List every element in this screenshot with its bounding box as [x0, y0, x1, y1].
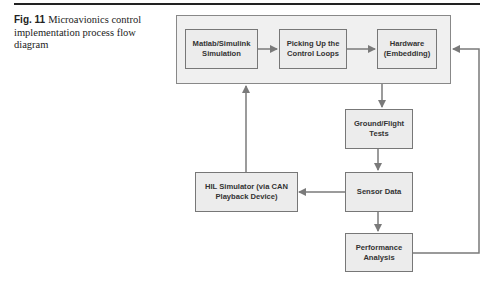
node-label: Performance	[356, 243, 402, 252]
node-label: HIL Simulator (via CAN	[205, 182, 288, 191]
node-label: Control Loops	[287, 49, 339, 58]
node-label: Analysis	[363, 253, 394, 262]
node-label: Picking Up the	[287, 39, 340, 48]
node-label: Tests	[369, 129, 388, 138]
node-sensor-data: Sensor Data	[345, 172, 413, 212]
node-matlab-simulink: Matlab/SimulinkSimulation	[185, 29, 258, 69]
node-performance-analysis: PerformanceAnalysis	[345, 233, 413, 272]
node-label: Playback Device)	[215, 192, 277, 201]
node-label: Matlab/Simulink	[193, 39, 251, 48]
node-label: Hardware	[390, 39, 425, 48]
node-hardware-embedding: Hardware(Embedding)	[377, 29, 437, 69]
node-label: Ground/Flight	[354, 119, 404, 128]
node-hil-simulator: HIL Simulator (via CANPlayback Device)	[195, 172, 298, 212]
node-label: Sensor Data	[357, 187, 401, 196]
node-picking-control-loops: Picking Up theControl Loops	[279, 29, 347, 69]
node-label: Simulation	[202, 49, 241, 58]
node-ground-flight-tests: Ground/FlightTests	[345, 109, 413, 149]
edge-performance-hardware	[412, 49, 479, 253]
node-label: (Embedding)	[384, 49, 430, 58]
